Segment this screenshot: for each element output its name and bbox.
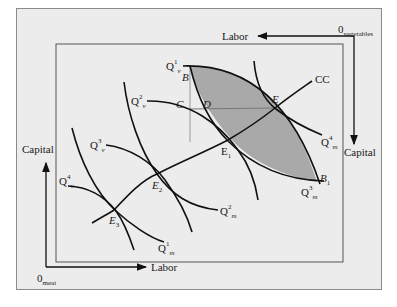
point-e-label: E [272, 94, 279, 105]
point-e3-label: E3 [109, 215, 119, 229]
point-c-label: C [176, 99, 183, 110]
meat-capital-label: Capital [22, 144, 54, 155]
isoquant-qm2-label: Q2m [220, 205, 237, 220]
point-d-label: D [203, 99, 211, 110]
meat-labor-label: Labor [151, 262, 177, 273]
isoquant-qv2-label: Q2v [131, 95, 146, 110]
isoquant-qm3-label: Q3m [301, 186, 318, 201]
isoquant-qm1-label: Q1m [158, 242, 175, 257]
edgeworth-box-diagram [0, 0, 397, 307]
isoquant-qv4-label: Q4v [59, 175, 74, 190]
vegetables-labor-label: Labor [222, 31, 248, 42]
contract-curve-label: CC [315, 74, 330, 85]
point-e2-label: E2 [152, 180, 162, 194]
point-e1-label: E1 [221, 146, 231, 160]
meat-origin-label: 0meat [37, 273, 56, 287]
vegetables-capital-label: Capital [344, 147, 376, 158]
vegetables-origin-label: 0vegetables [338, 24, 373, 38]
point-b1-label: B1 [320, 173, 330, 187]
isoquant-qm4-label: Q4m [321, 136, 338, 151]
isoquant-qv1-label: Q1v [166, 60, 181, 75]
isoquant-qv3-label: Q3v [90, 139, 105, 154]
point-b-label: B [182, 72, 189, 83]
